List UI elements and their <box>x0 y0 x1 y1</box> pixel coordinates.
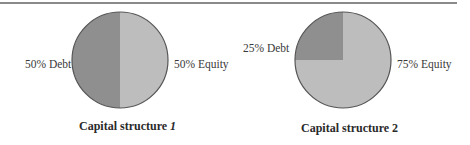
pie2-caption: Capital structure 2 <box>301 121 398 136</box>
pie-chart-1 <box>70 10 170 110</box>
pie-chart-2 <box>293 10 393 110</box>
pie2-debt-label: 25% Debt <box>243 42 289 54</box>
pie1-debt-label: 50% Debt <box>25 58 71 70</box>
pie2-equity-label: 75% Equity <box>397 58 452 70</box>
pie1-caption: Capital structure 1 <box>79 119 176 134</box>
pie1-equity-slice <box>120 12 168 108</box>
top-rule <box>0 2 457 4</box>
pie2-debt-slice <box>295 12 343 60</box>
pie1-debt-slice <box>72 12 120 108</box>
pie1-equity-label: 50% Equity <box>174 58 229 70</box>
